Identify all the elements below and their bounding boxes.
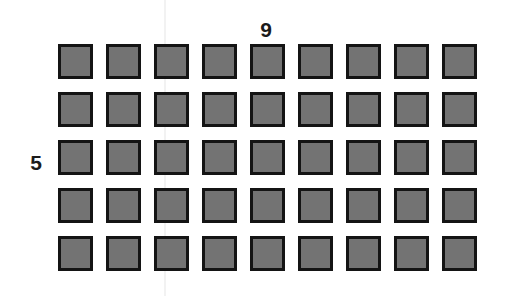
grid-square	[250, 44, 285, 79]
grid-square	[394, 236, 429, 271]
grid-square	[106, 188, 141, 223]
grid-square	[202, 236, 237, 271]
grid-square	[298, 188, 333, 223]
grid-square	[202, 44, 237, 79]
grid-square	[394, 140, 429, 175]
grid-square	[298, 44, 333, 79]
grid-square	[442, 140, 477, 175]
grid-row	[58, 188, 477, 236]
column-count-label: 9	[0, 19, 512, 40]
grid-square	[250, 188, 285, 223]
grid-square	[346, 140, 381, 175]
grid-square	[394, 44, 429, 79]
grid-square	[346, 188, 381, 223]
grid-square	[106, 44, 141, 79]
grid-square	[154, 140, 189, 175]
grid-square	[298, 236, 333, 271]
grid-square	[154, 236, 189, 271]
grid-square	[58, 236, 93, 271]
grid-square	[346, 92, 381, 127]
grid-square	[442, 92, 477, 127]
grid-square	[394, 92, 429, 127]
row-count-label: 5	[26, 152, 46, 173]
grid-square	[202, 92, 237, 127]
grid-square	[442, 44, 477, 79]
grid-square	[58, 140, 93, 175]
grid-square	[250, 140, 285, 175]
grid-square	[106, 92, 141, 127]
grid-square	[58, 92, 93, 127]
grid-row	[58, 140, 477, 188]
grid-square	[346, 236, 381, 271]
figure-canvas: 9 5	[0, 0, 512, 296]
grid-square	[154, 188, 189, 223]
grid-row	[58, 92, 477, 140]
grid-square	[394, 188, 429, 223]
grid-square	[202, 188, 237, 223]
grid-square	[58, 188, 93, 223]
grid-square	[250, 236, 285, 271]
grid-square	[346, 44, 381, 79]
grid-square	[202, 140, 237, 175]
grid-row	[58, 236, 477, 271]
grid-square	[442, 236, 477, 271]
grid-square	[442, 188, 477, 223]
grid-square	[154, 92, 189, 127]
grid-square	[298, 140, 333, 175]
grid-square	[58, 44, 93, 79]
grid-square	[106, 140, 141, 175]
grid-square	[250, 92, 285, 127]
square-grid	[58, 44, 477, 271]
grid-row	[58, 44, 477, 92]
grid-square	[106, 236, 141, 271]
grid-square	[298, 92, 333, 127]
grid-square	[154, 44, 189, 79]
